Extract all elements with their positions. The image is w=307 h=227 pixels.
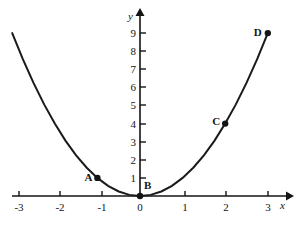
y-tick-label-6: 6 bbox=[131, 82, 137, 93]
data-point-d bbox=[265, 30, 271, 36]
point-label-a: A bbox=[84, 172, 92, 183]
y-tick-label-7: 7 bbox=[131, 64, 137, 75]
y-axis-label: y bbox=[128, 11, 133, 22]
data-point-markers bbox=[94, 30, 271, 199]
data-point-c bbox=[222, 120, 228, 126]
y-tick-label-4: 4 bbox=[131, 119, 137, 130]
x-tick-label--3: -3 bbox=[14, 202, 23, 213]
y-tick-label-3: 3 bbox=[131, 137, 137, 148]
x-axis bbox=[12, 191, 294, 201]
x-tick-label-2: 2 bbox=[223, 202, 229, 213]
x-tick-label--2: -2 bbox=[55, 202, 64, 213]
point-label-c: C bbox=[212, 116, 220, 127]
x-tick-label-0: 0 bbox=[137, 202, 143, 213]
point-label-d: D bbox=[254, 27, 262, 38]
y-axis bbox=[136, 8, 147, 196]
y-tick-label-9: 9 bbox=[131, 28, 137, 39]
x-tick-label-3: 3 bbox=[265, 202, 271, 213]
data-point-b bbox=[137, 193, 143, 199]
y-tick-label-2: 2 bbox=[131, 155, 137, 166]
y-tick-label-1: 1 bbox=[131, 173, 137, 184]
y-tick-label-5: 5 bbox=[131, 100, 137, 111]
x-axis-label: x bbox=[280, 200, 285, 211]
data-point-a bbox=[94, 175, 100, 181]
point-label-b: B bbox=[144, 180, 151, 191]
y-tick-label-8: 8 bbox=[131, 46, 137, 57]
x-tick-label--1: -1 bbox=[97, 202, 106, 213]
x-tick-label-1: 1 bbox=[182, 202, 188, 213]
parabola-figure: -3 -2 -1 0 1 2 3 1 2 3 4 5 6 7 8 9 y x A… bbox=[0, 0, 307, 227]
